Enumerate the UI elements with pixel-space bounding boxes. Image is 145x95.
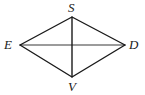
vertex-label-v: V (68, 80, 76, 93)
edge-DV (72, 45, 125, 77)
geometry-diagram: S E D V (0, 0, 145, 95)
vertex-label-d: D (129, 38, 138, 51)
edge-VE (20, 45, 72, 77)
edge-SD (72, 17, 125, 45)
vertex-label-e: E (4, 38, 12, 51)
vertex-label-s: S (68, 1, 75, 14)
edge-ES (20, 17, 72, 45)
